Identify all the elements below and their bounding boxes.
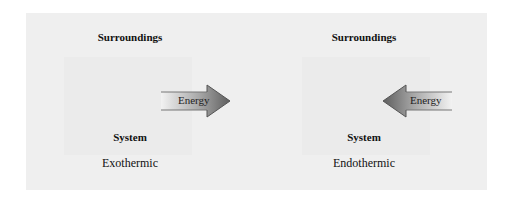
system-label-left: System: [113, 131, 147, 143]
energy-label-right: Energy: [410, 94, 442, 106]
surroundings-label-left: Surroundings: [98, 31, 163, 43]
surroundings-label-right: Surroundings: [332, 31, 397, 43]
process-label-exothermic: Exothermic: [102, 156, 158, 171]
process-label-endothermic: Endothermic: [333, 156, 395, 171]
energy-label-left: Energy: [178, 94, 210, 106]
system-label-right: System: [347, 131, 381, 143]
